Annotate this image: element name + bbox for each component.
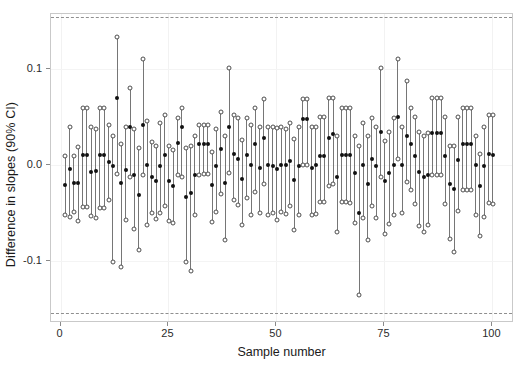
ci-interval-line: [454, 146, 455, 252]
ci-interval-line: [242, 140, 243, 224]
ci-interval-line: [389, 132, 390, 224]
y-tick--0.1: [46, 260, 50, 261]
ci-interval-line: [441, 98, 442, 175]
lower-reference-line: [51, 313, 512, 314]
point-estimate-marker: [85, 153, 89, 157]
point-estimate-marker: [115, 96, 119, 100]
x-tick-0: [60, 322, 61, 326]
ci-endpoint-marker: [192, 213, 197, 218]
point-estimate-marker: [214, 164, 218, 168]
ci-endpoint-marker: [413, 201, 418, 206]
ci-interval-line: [479, 154, 480, 237]
ci-endpoint-marker: [249, 122, 254, 127]
ci-endpoint-marker: [357, 292, 362, 297]
ci-endpoint-marker: [404, 180, 409, 185]
ci-endpoint-marker: [67, 214, 72, 219]
point-estimate-marker: [94, 169, 98, 173]
ci-endpoint-marker: [214, 126, 219, 131]
ci-endpoint-marker: [348, 105, 353, 110]
ci-endpoint-marker: [335, 230, 340, 235]
point-estimate-marker: [409, 142, 413, 146]
point-estimate-marker: [180, 125, 184, 129]
ci-interval-line: [134, 129, 135, 230]
point-estimate-marker: [456, 158, 460, 162]
point-estimate-marker: [353, 171, 357, 175]
ci-endpoint-marker: [443, 201, 448, 206]
ci-interval-line: [251, 125, 252, 215]
point-estimate-marker: [189, 191, 193, 195]
point-estimate-marker: [223, 181, 227, 185]
ci-interval-line: [238, 118, 239, 205]
ci-interval-line: [95, 129, 96, 218]
point-estimate-marker: [396, 115, 400, 119]
ci-endpoint-marker: [352, 134, 357, 139]
ci-endpoint-marker: [408, 105, 413, 110]
point-estimate-marker: [452, 187, 456, 191]
ci-interval-line: [410, 108, 411, 191]
point-estimate-marker: [413, 154, 417, 158]
point-estimate-marker: [68, 167, 72, 171]
ci-interval-line: [466, 108, 467, 191]
ci-endpoint-marker: [421, 134, 426, 139]
point-estimate-marker: [417, 170, 421, 174]
ci-interval-line: [488, 115, 489, 202]
ci-endpoint-marker: [236, 116, 241, 121]
ci-endpoint-marker: [421, 230, 426, 235]
ci-interval-line: [320, 117, 321, 201]
ci-interval-line: [186, 148, 187, 262]
ci-endpoint-marker: [231, 197, 236, 202]
gridline-vertical-0: [61, 14, 62, 321]
ci-endpoint-marker: [84, 205, 89, 210]
ci-endpoint-marker: [236, 203, 241, 208]
ci-endpoint-marker: [287, 204, 292, 209]
point-estimate-marker: [240, 177, 244, 181]
point-estimate-marker: [310, 166, 314, 170]
ci-endpoint-marker: [482, 124, 487, 129]
ci-endpoint-marker: [490, 201, 495, 206]
ci-interval-line: [436, 98, 437, 175]
ci-interval-line: [143, 59, 144, 175]
ci-endpoint-marker: [357, 143, 362, 148]
y-tick-label-0.1: 0.1: [8, 62, 42, 74]
ci-endpoint-marker: [244, 116, 249, 121]
ci-endpoint-marker: [223, 134, 228, 139]
point-estimate-marker: [227, 125, 231, 129]
ci-endpoint-marker: [154, 216, 159, 221]
point-estimate-marker: [262, 136, 266, 140]
ci-endpoint-marker: [305, 96, 310, 101]
ci-interval-line: [462, 108, 463, 191]
point-estimate-marker: [184, 195, 188, 199]
ci-interval-line: [415, 117, 416, 203]
point-estimate-marker: [236, 157, 240, 161]
ci-endpoint-marker: [253, 105, 258, 110]
ci-endpoint-marker: [162, 113, 167, 118]
point-estimate-marker: [206, 142, 210, 146]
ci-endpoint-marker: [369, 116, 374, 121]
ci-interval-line: [285, 129, 286, 214]
ci-endpoint-marker: [274, 217, 279, 222]
ci-endpoint-marker: [400, 211, 405, 216]
ci-interval-line: [475, 136, 476, 215]
ci-interval-line: [307, 99, 308, 165]
ci-interval-line: [276, 128, 277, 220]
ci-endpoint-marker: [374, 124, 379, 129]
ci-interval-line: [190, 146, 191, 271]
ci-interval-line: [406, 81, 407, 183]
ci-endpoint-marker: [382, 139, 387, 144]
ci-interval-line: [402, 127, 403, 213]
point-estimate-marker: [253, 142, 257, 146]
ci-endpoint-marker: [132, 227, 137, 232]
ci-interval-line: [229, 68, 230, 173]
ci-endpoint-marker: [84, 105, 89, 110]
ci-endpoint-marker: [227, 170, 232, 175]
ci-endpoint-marker: [141, 172, 146, 177]
ci-interval-line: [164, 115, 165, 206]
point-estimate-marker: [361, 163, 365, 167]
ci-interval-line: [432, 98, 433, 175]
ci-endpoint-marker: [477, 151, 482, 156]
ci-interval-line: [130, 88, 131, 176]
point-estimate-marker: [474, 163, 478, 167]
ci-endpoint-marker: [382, 232, 387, 237]
ci-endpoint-marker: [452, 249, 457, 254]
point-estimate-marker: [141, 123, 145, 127]
